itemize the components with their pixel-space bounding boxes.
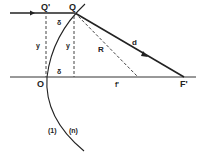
label-medium-1: (1)	[48, 127, 57, 135]
label-delta-top: δ	[57, 19, 61, 26]
incident-arrow-icon	[30, 11, 35, 16]
label-y-left: y	[36, 42, 40, 50]
refracted-ray	[75, 13, 184, 77]
refraction-diagram: Q' Q δ y y R d δ O f' F' (1) (n)	[0, 0, 211, 153]
label-Q-prime: Q'	[41, 2, 50, 12]
label-F-prime: F'	[180, 79, 188, 89]
label-Q: Q	[69, 2, 76, 12]
label-R: R	[98, 45, 104, 54]
label-O: O	[37, 79, 44, 89]
label-delta-bottom: δ	[57, 68, 61, 75]
label-d: d	[132, 38, 137, 47]
label-f-prime: f'	[115, 81, 119, 88]
label-medium-n: (n)	[69, 127, 78, 135]
label-y-right: y	[66, 42, 70, 50]
